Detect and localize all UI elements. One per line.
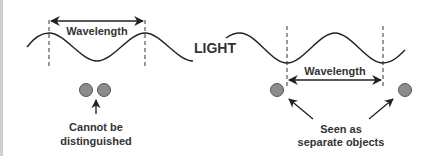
caption-right-line-2: separate objects [298, 136, 385, 148]
wavelength-label-left: Wavelength [66, 25, 128, 37]
pointer-arrow-left-diag [289, 99, 313, 119]
object-circle-close-2 [98, 84, 111, 97]
light-label: LIGHT [194, 40, 236, 56]
resolution-diagram: Wavelength Wavelength LIGHT Cannot be di… [0, 0, 437, 156]
light-wave-right [226, 33, 405, 63]
object-circle-far-1 [271, 84, 284, 97]
object-circle-close-1 [80, 84, 93, 97]
wavelength-label-right: Wavelength [304, 65, 366, 77]
caption-left-line-1: Cannot be [69, 121, 123, 133]
caption-right-line-1: Seen as [320, 123, 362, 135]
pointer-arrow-right-diag [369, 99, 393, 119]
object-circle-far-2 [399, 84, 412, 97]
caption-left-line-2: distinguished [60, 135, 132, 147]
light-wave-left [27, 33, 193, 61]
